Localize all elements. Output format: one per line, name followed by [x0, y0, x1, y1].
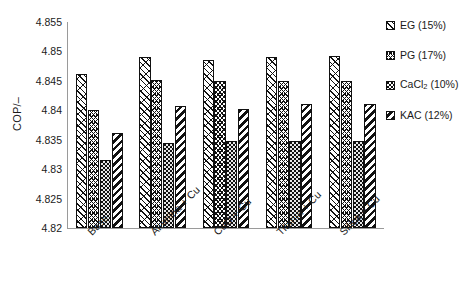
legend-item-label: PG (17%)	[400, 50, 446, 61]
y-tick-label: 4.85	[18, 46, 62, 56]
bar	[112, 133, 123, 228]
bar	[278, 81, 289, 228]
bar	[88, 110, 99, 228]
legend-swatch-icon	[386, 81, 395, 90]
legend-item: CaCl2 (10%)	[386, 80, 467, 91]
bar	[139, 57, 150, 228]
bar-chart-figure: COP/– 4.824.8254.834.8354.844.8454.854.8…	[0, 0, 467, 299]
bar-groups	[68, 22, 384, 228]
x-axis-tick-labels: BaseAlumina + CuCuO + CuTitania + CuSili…	[67, 229, 397, 299]
y-axis-tick-labels: 4.824.8254.834.8354.844.8454.854.855	[18, 0, 62, 299]
plot-area	[67, 22, 384, 229]
legend-swatch-icon	[386, 21, 395, 30]
legend-item: PG (17%)	[386, 50, 467, 61]
bar	[341, 81, 352, 228]
legend-item: KAC (12%)	[386, 110, 467, 121]
bar	[203, 60, 214, 228]
bar	[151, 80, 162, 228]
legend-item-label: CaCl2 (10%)	[400, 79, 458, 92]
bar-group	[68, 22, 131, 228]
y-tick-label: 4.855	[18, 17, 62, 27]
legend-swatch-icon	[386, 111, 395, 120]
bar	[214, 81, 225, 228]
legend-item-label: KAC (12%)	[400, 110, 453, 121]
y-tick-label: 4.825	[18, 194, 62, 204]
bar	[266, 57, 277, 228]
bar-group	[194, 22, 257, 228]
bar	[329, 56, 340, 228]
legend-item: EG (15%)	[386, 20, 467, 31]
y-tick-label: 4.835	[18, 135, 62, 145]
legend-item-label: EG (15%)	[400, 20, 446, 31]
y-tick-label: 4.83	[18, 164, 62, 174]
y-tick-label: 4.845	[18, 76, 62, 86]
y-tick-label: 4.84	[18, 105, 62, 115]
legend-swatch-icon	[386, 51, 395, 60]
chart-legend: EG (15%)PG (17%)CaCl2 (10%)KAC (12%)	[386, 20, 467, 140]
y-tick-label: 4.82	[18, 223, 62, 233]
bar	[76, 74, 87, 228]
